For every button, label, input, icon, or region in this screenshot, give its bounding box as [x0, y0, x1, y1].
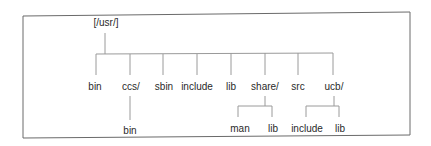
tree-node-share-lib: lib [268, 123, 278, 135]
tree-node-ccs-bin: bin [123, 125, 136, 137]
tree-root-usr: [/usr/] [93, 17, 118, 29]
tree-node-ucb-include: include [291, 123, 323, 135]
tree-node-include: include [181, 81, 213, 93]
tree-node-ucb: ucb/ [325, 81, 344, 93]
tree-node-src: src [291, 81, 304, 93]
tree-node-ccs: ccs/ [122, 81, 140, 93]
tree-node-bin: bin [88, 81, 101, 93]
tree-connectors [0, 0, 431, 146]
diagram-frame [23, 12, 410, 138]
tree-node-share-man: man [230, 123, 249, 135]
tree-node-lib: lib [226, 81, 236, 93]
tree-node-sbin: sbin [155, 81, 173, 93]
tree-node-share: share/ [251, 81, 279, 93]
tree-node-ucb-lib: lib [335, 123, 345, 135]
